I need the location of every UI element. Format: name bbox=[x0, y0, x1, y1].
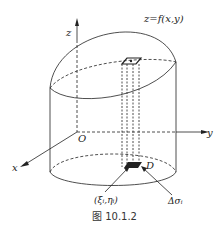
figure-caption: 图 10.1.2 bbox=[92, 212, 137, 222]
x-axis-label: x bbox=[12, 163, 18, 173]
z-axis-label: z bbox=[66, 28, 71, 38]
area-arrow bbox=[143, 168, 172, 195]
point-arrow bbox=[105, 168, 128, 192]
x-axis bbox=[24, 132, 77, 165]
origin-label: O bbox=[78, 134, 86, 144]
surface-back-edge bbox=[50, 59, 176, 88]
surface-front-edge bbox=[50, 62, 176, 99]
base-back-edge bbox=[50, 154, 176, 172]
surface-label: z=f(x,y) bbox=[144, 14, 184, 24]
point-label: (ξᵢ,ηᵢ) bbox=[94, 196, 118, 205]
region-label: D bbox=[146, 161, 154, 171]
y-axis-label: y bbox=[207, 128, 213, 138]
area-element-label: Δσᵢ bbox=[168, 197, 182, 206]
